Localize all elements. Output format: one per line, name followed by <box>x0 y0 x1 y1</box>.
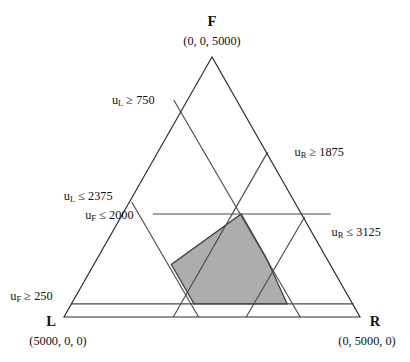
vertex-coords-bottom-right: (0, 5000, 0) <box>338 334 395 348</box>
constraint-label-uF-max-rel: ≤ 2000 <box>96 208 134 222</box>
vertex-label-bottom-right: R <box>370 313 381 329</box>
constraint-label-uL-max: uL ≤ 2375 <box>42 189 128 204</box>
constraint-label-uL-min: uL ≥ 750 <box>90 93 170 108</box>
vertex-coords-bottom-left: (5000, 0, 0) <box>29 334 86 348</box>
constraint-label-uL-min-rel: ≥ 750 <box>123 93 154 107</box>
constraint-label-uR-min: uR ≥ 1875 <box>273 145 359 160</box>
constraint-label-uF-max: uF ≤ 2000 <box>64 208 149 223</box>
constraint-label-uR-max: uR ≤ 3125 <box>310 225 396 240</box>
constraint-label-uF-min-rel: ≥ 250 <box>21 289 52 303</box>
constraint-label-uR-max-rel: ≤ 3125 <box>343 225 381 239</box>
ternary-diagram-svg: F (0, 0, 5000) L (5000, 0, 0) R (0, 5000… <box>0 0 410 362</box>
vertex-coords-top: (0, 0, 5000) <box>183 34 240 48</box>
vertex-label-top: F <box>208 13 217 29</box>
constraint-label-uR-min-rel: ≥ 1875 <box>306 145 344 159</box>
ternary-diagram-container: F (0, 0, 5000) L (5000, 0, 0) R (0, 5000… <box>0 0 410 362</box>
vertex-label-bottom-left: L <box>46 313 56 329</box>
constraint-label-uL-max-rel: ≤ 2375 <box>75 189 113 203</box>
constraint-label-uF-min: uF ≥ 250 <box>0 289 68 304</box>
